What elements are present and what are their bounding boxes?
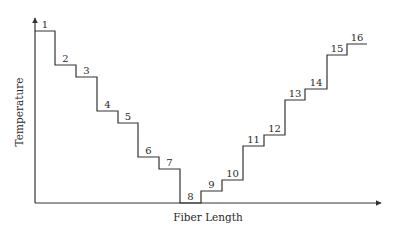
- step-label: 15: [331, 43, 344, 54]
- step-label: 14: [310, 77, 323, 88]
- step-label: 6: [145, 145, 151, 156]
- step-label: 8: [187, 191, 193, 202]
- step-label: 1: [42, 19, 48, 30]
- step-label: 10: [226, 168, 239, 179]
- step-label: 2: [62, 53, 68, 64]
- step-label: 13: [289, 88, 302, 99]
- y-axis-label: Temperature: [13, 78, 25, 147]
- step-label: 5: [125, 111, 131, 122]
- step-label: 7: [166, 157, 172, 168]
- step-label: 4: [104, 99, 110, 110]
- step-label: 16: [351, 32, 364, 43]
- step-labels: 12345678910111213141516: [42, 19, 364, 202]
- temperature-profile-diagram: 12345678910111213141516 Fiber Length Tem…: [0, 0, 397, 235]
- x-axis-label: Fiber Length: [173, 211, 243, 223]
- step-profile-line: [35, 31, 367, 203]
- step-label: 3: [83, 65, 89, 76]
- step-label: 12: [268, 123, 281, 134]
- step-label: 9: [208, 179, 214, 190]
- step-label: 11: [247, 134, 260, 145]
